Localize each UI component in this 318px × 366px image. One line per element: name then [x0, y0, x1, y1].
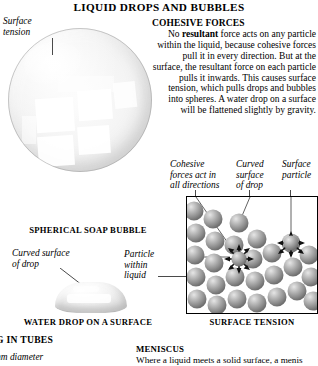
- caption-spherical-soap-bubble: SPHERICAL SOAP BUBBLE: [0, 225, 176, 235]
- meniscus-heading: MENISCUS: [136, 344, 184, 354]
- cohesive-lead-plain: No: [168, 29, 182, 39]
- label-cohesive-forces-act: Cohesiveforces act inall directions: [170, 159, 232, 191]
- bottom-section-italic-label: mm diameter: [0, 352, 86, 363]
- cohesive-lead-bold: resultant: [182, 29, 218, 39]
- bubble-outline: [8, 28, 152, 172]
- label-curved-surface-of-drop: Curved surfaceof drop: [12, 248, 92, 269]
- water-drop-shape: [55, 282, 127, 313]
- water-drop-highlight-top: [73, 286, 99, 292]
- leader-line-cohesive-act: [195, 190, 196, 196]
- surface-particle: [283, 235, 298, 250]
- meniscus-body: Where a liquid meets a solid surface, a …: [136, 355, 318, 366]
- liquid-drops-and-bubbles-page: LIQUID DROPS AND BUBBLES Surfacetension …: [0, 0, 318, 366]
- leader-line-surface-particle: [290, 190, 291, 196]
- interior-particle: [231, 251, 246, 266]
- soap-bubble-figure: [2, 20, 154, 220]
- label-panel-curved-surface: Curvedsurfaceof drop: [236, 159, 280, 191]
- label-surface-tension: Surfacetension: [3, 16, 61, 37]
- cohesive-forces-block: COHESIVE FORCES No resultant force acts …: [152, 18, 316, 116]
- particle-lattice: [187, 197, 317, 313]
- leader-line-surface-tension: [52, 38, 53, 55]
- leader-line-panel-curved-surface: [249, 190, 250, 196]
- water-drop-highlight: [67, 294, 111, 303]
- page-title: LIQUID DROPS AND BUBBLES: [0, 1, 318, 13]
- label-surface-particle: Surfaceparticle: [282, 159, 318, 180]
- surface-tension-diagram: [186, 196, 318, 314]
- cohesive-body-text: force acts on any particle within the li…: [153, 29, 316, 115]
- leader-line-particle-within: [158, 276, 188, 277]
- cohesive-forces-body: No resultant force acts on any particle …: [152, 29, 316, 116]
- cohesive-forces-heading: COHESIVE FORCES: [152, 18, 316, 29]
- caption-water-drop-on-a-surface: WATER DROP ON A SURFACE: [0, 317, 176, 327]
- bottom-section-heading: G IN TUBES: [0, 334, 53, 345]
- caption-surface-tension: SURFACE TENSION: [186, 317, 318, 327]
